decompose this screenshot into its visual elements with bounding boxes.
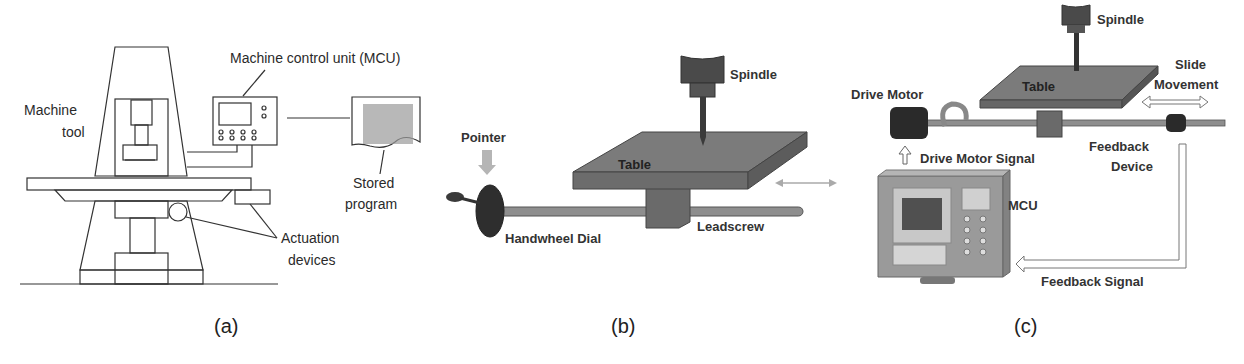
label-stored-program-2: program (345, 196, 397, 212)
label-slide: Slide (1175, 57, 1206, 72)
label-machine-tool: Machine (24, 102, 77, 118)
caption-c: (c) (1014, 315, 1037, 338)
label-pointer: Pointer (461, 130, 506, 145)
label-drive-motor-signal: Drive Motor Signal (920, 151, 1035, 166)
program-text-texture (363, 104, 413, 144)
label-feedback-device: Feedback (1089, 139, 1149, 154)
label-drive-motor: Drive Motor (851, 87, 923, 102)
caption-a: (a) (214, 315, 238, 338)
label-spindle-b: Spindle (730, 67, 777, 82)
label-table-c: Table (1022, 79, 1055, 94)
machine-tool-drawing (20, 47, 420, 284)
diagram-canvas (0, 0, 1244, 364)
label-leadscrew: Leadscrew (697, 219, 764, 234)
label-mcu-c: MCU (1008, 198, 1038, 213)
label-machine-tool-2: tool (62, 124, 85, 140)
label-feedback-device-2: Device (1111, 159, 1153, 174)
manual-machine-drawing (446, 56, 837, 237)
label-spindle-c: Spindle (1097, 12, 1144, 27)
label-actuation: Actuation (281, 230, 339, 246)
label-feedback-signal: Feedback Signal (1041, 274, 1144, 289)
label-mcu: Machine control unit (MCU) (230, 50, 400, 66)
label-actuation-2: devices (288, 252, 335, 268)
label-handwheel: Handwheel Dial (505, 231, 601, 246)
cnc-system-drawing (878, 5, 1225, 284)
label-movement: Movement (1154, 77, 1218, 92)
label-table-b: Table (618, 157, 651, 172)
caption-b: (b) (611, 315, 635, 338)
label-stored-program: Stored (353, 175, 394, 191)
